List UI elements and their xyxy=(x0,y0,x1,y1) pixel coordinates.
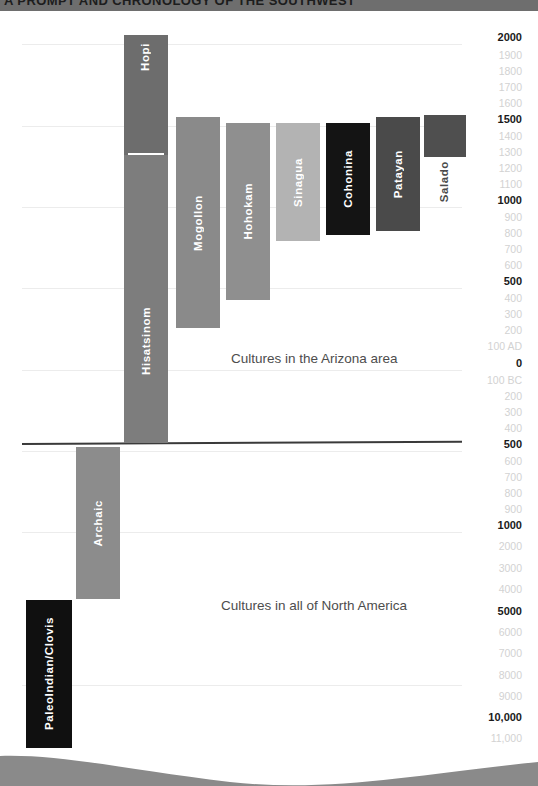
bar-label-paleoindian-clovis: PaleoIndian/Clovis xyxy=(43,617,55,730)
axis-tick-800: 800 xyxy=(466,488,522,498)
bar-label-archaic: Archaic xyxy=(92,500,104,546)
axis-tick-900: 900 xyxy=(466,212,522,222)
axis-tick-3000: 3000 xyxy=(466,563,522,573)
axis-tick-1500: 1500 xyxy=(466,114,522,124)
axis-tick-600: 600 xyxy=(466,260,522,270)
bar-label-hopi: Hopi xyxy=(139,43,151,71)
axis-tick-400: 400 xyxy=(466,293,522,303)
running-head-strip: A PROMPT AND CHRONOLOGY OF THE SOUTHWEST xyxy=(0,0,538,11)
axis-tick-9000: 9000 xyxy=(466,691,522,701)
bar-archaic[interactable]: Archaic xyxy=(76,447,120,599)
axis-tick-200: 200 xyxy=(466,325,522,335)
era-divider-line xyxy=(22,441,462,445)
axis-tick-1300: 1300 xyxy=(466,147,522,157)
axis-tick-1200: 1200 xyxy=(466,163,522,173)
axis-tick-900: 900 xyxy=(466,504,522,514)
wave-shape xyxy=(0,740,538,786)
bar-label-hisatsinom: Hisatsinom xyxy=(140,307,152,375)
axis-tick-500: 500 xyxy=(466,439,522,449)
bar-salado[interactable]: Salado xyxy=(424,115,466,157)
caption-north-america: Cultures in all of North America xyxy=(221,598,407,613)
axis-tick-400: 400 xyxy=(466,423,522,433)
bar-sinagua[interactable]: Sinagua xyxy=(276,123,320,241)
bar-hopi[interactable]: Hopi xyxy=(124,35,168,155)
axis-tick-100-ad: 100 AD xyxy=(466,341,522,351)
axis-tick-600: 600 xyxy=(466,456,522,466)
axis-tick-1600: 1600 xyxy=(466,98,522,108)
axis-tick-300: 300 xyxy=(466,309,522,319)
axis-tick-700: 700 xyxy=(466,472,522,482)
bar-label-sinagua: Sinagua xyxy=(292,158,304,207)
axis-tick-6000: 6000 xyxy=(466,627,522,637)
hopi-hisatsinom-divider xyxy=(128,153,164,155)
gridline-0 xyxy=(22,44,462,45)
bar-paleoindian-clovis[interactable]: PaleoIndian/Clovis xyxy=(26,600,72,748)
caption-arizona: Cultures in the Arizona area xyxy=(231,351,398,366)
axis-tick-1700: 1700 xyxy=(466,82,522,92)
bar-cohonina[interactable]: Cohonina xyxy=(326,123,370,235)
bar-hisatsinom[interactable]: Hisatsinom xyxy=(124,155,168,443)
bar-label-mogollon: Mogollon xyxy=(192,195,204,251)
axis-tick-2000: 2000 xyxy=(466,32,522,42)
axis-tick-10-000: 10,000 xyxy=(466,712,522,722)
bar-hohokam[interactable]: Hohokam xyxy=(226,123,270,300)
axis-tick-1000: 1000 xyxy=(466,195,522,205)
axis-tick-8000: 8000 xyxy=(466,670,522,680)
axis-tick-0: 0 xyxy=(466,358,522,368)
bar-label-hohokam: Hohokam xyxy=(242,183,254,240)
axis-tick-1000: 1000 xyxy=(466,520,522,530)
bar-label-salado: Salado xyxy=(438,161,450,202)
bar-label-patayan: Patayan xyxy=(392,150,404,198)
axis-tick-200: 200 xyxy=(466,391,522,401)
bottom-wave-decoration xyxy=(0,740,538,786)
axis-tick-7000: 7000 xyxy=(466,648,522,658)
timeline-axis: 2000190018001700160015001400130012001100… xyxy=(466,11,538,746)
axis-tick-1900: 1900 xyxy=(466,50,522,60)
axis-tick-1400: 1400 xyxy=(466,131,522,141)
axis-tick-2000: 2000 xyxy=(466,541,522,551)
axis-tick-1100: 1100 xyxy=(466,179,522,189)
bar-label-cohonina: Cohonina xyxy=(342,150,354,208)
bar-patayan[interactable]: Patayan xyxy=(376,117,420,231)
running-head-text: A PROMPT AND CHRONOLOGY OF THE SOUTHWEST xyxy=(4,0,355,8)
axis-tick-300: 300 xyxy=(466,407,522,417)
axis-tick-1800: 1800 xyxy=(466,66,522,76)
timeline-chart: Hopi Hisatsinom Mogollon Hohokam Sinagua… xyxy=(0,11,538,746)
gridline-7 xyxy=(22,685,462,686)
axis-tick-4000: 4000 xyxy=(466,584,522,594)
axis-tick-500: 500 xyxy=(466,276,522,286)
gridline-4 xyxy=(22,370,462,371)
axis-tick-100-bc: 100 BC xyxy=(466,375,522,385)
axis-tick-5000: 5000 xyxy=(466,606,522,616)
axis-tick-700: 700 xyxy=(466,244,522,254)
bar-mogollon[interactable]: Mogollon xyxy=(176,117,220,328)
axis-tick-800: 800 xyxy=(466,228,522,238)
